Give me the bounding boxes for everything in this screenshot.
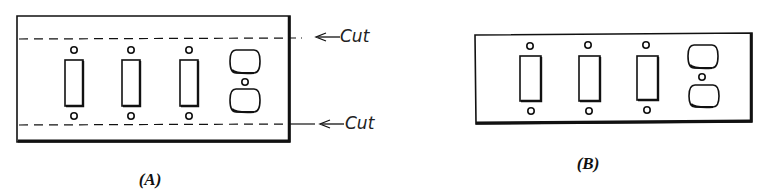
panel-b-label: (B)	[577, 154, 600, 174]
panel-b-switch-3	[637, 42, 658, 113]
cut-label-top: Cut	[340, 26, 369, 46]
panel-b-switch-1	[520, 43, 541, 114]
panel-a-plate	[17, 16, 290, 142]
cut-line-top	[19, 38, 290, 39]
panel-b-switch-2	[579, 42, 600, 114]
panel-a-switch-1	[65, 47, 83, 119]
panel-b-plate	[475, 33, 752, 124]
cut-label-bottom: Cut	[345, 113, 374, 133]
wall-plate-diagram	[0, 0, 762, 193]
panel-a-label: (A)	[139, 170, 162, 190]
panel-b-duplex-outlet	[688, 45, 719, 107]
panel-a-switch-3	[180, 47, 198, 119]
panel-a-duplex-outlet	[230, 50, 260, 112]
panel-a-switch-2	[122, 47, 140, 119]
cut-line-bottom	[19, 124, 290, 125]
